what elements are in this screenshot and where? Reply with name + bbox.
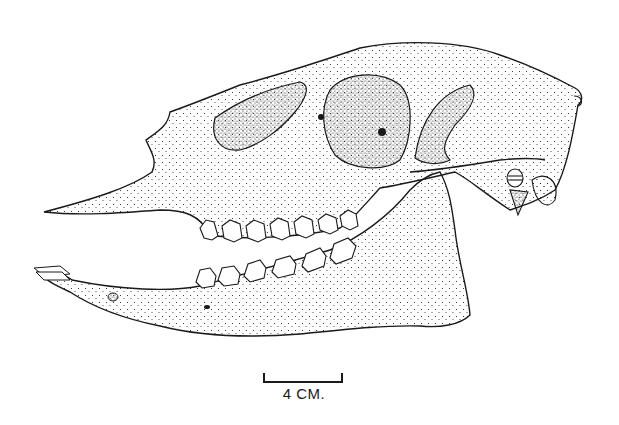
foramen-small	[318, 114, 324, 120]
orbit	[324, 75, 410, 168]
scale-bar	[263, 371, 343, 383]
foramen	[378, 128, 386, 136]
scale-bar-label: 4 CM.	[268, 385, 340, 402]
cranium	[44, 43, 582, 238]
incisors	[34, 266, 70, 280]
mental-foramen	[108, 293, 118, 301]
scale-bar-line	[263, 381, 343, 383]
scale-bar-tick-left	[263, 373, 265, 383]
mental-foramen-small	[204, 305, 210, 309]
scale-bar-tick-right	[341, 373, 343, 383]
skull-illustration	[0, 0, 619, 425]
